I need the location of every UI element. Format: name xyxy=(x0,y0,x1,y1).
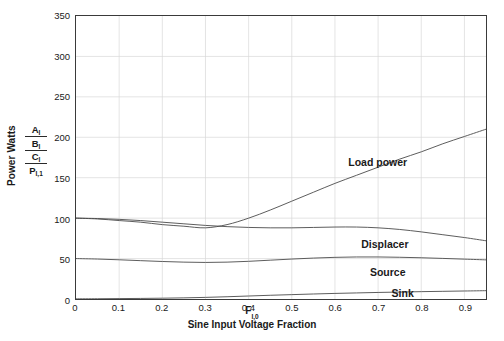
y-tick-label: 100 xyxy=(36,213,70,224)
series-line-source xyxy=(76,257,486,263)
curve-label-displacer: Displacer xyxy=(361,238,408,250)
y-tick-label: 350 xyxy=(36,10,70,21)
curve-label-source: Source xyxy=(370,266,406,278)
y-axis-ticks: 050100150200250300350 xyxy=(36,0,70,341)
plot-area xyxy=(75,15,487,300)
y-tick-label: 150 xyxy=(36,172,70,183)
chart-figure: Power Watts AIBICIPI,1 05010015020025030… xyxy=(0,0,504,341)
x-axis-title: Sine Input Voltage Fraction xyxy=(0,319,504,330)
y-tick-label: 200 xyxy=(36,132,70,143)
curve-label-load-power: Load power xyxy=(348,156,407,168)
x-axis-symbol: FI,0 xyxy=(0,305,504,318)
y-axis-title: Power Watts xyxy=(2,108,20,204)
y-tick-label: 300 xyxy=(36,50,70,61)
series-line-sink xyxy=(76,291,486,299)
series-line-load-power xyxy=(76,129,486,228)
plot-canvas xyxy=(76,16,486,299)
y-tick-label: 50 xyxy=(36,254,70,265)
curve-label-sink: Sink xyxy=(392,287,414,299)
y-tick-label: 250 xyxy=(36,91,70,102)
